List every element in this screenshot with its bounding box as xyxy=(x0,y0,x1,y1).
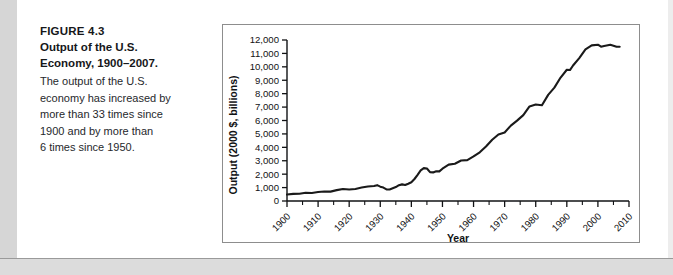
output-line-chart: Output (2000 $, billions) 01,0002,0003,0… xyxy=(223,25,639,242)
x-tick-label-1950: 1950 xyxy=(425,211,448,234)
y-tick-label-6000: 6,000 xyxy=(255,115,279,126)
figure-description: The output of the U.S. economy has incre… xyxy=(40,73,208,156)
page-edge-bottom xyxy=(0,259,673,275)
y-tick-label-10000: 10,000 xyxy=(250,61,279,72)
page-edge-left xyxy=(0,0,17,275)
figure-caption: FIGURE 4.3 Output of the U.S. Economy, 1… xyxy=(40,24,208,156)
x-tick-label-1970: 1970 xyxy=(487,211,510,234)
figure-number: FIGURE 4.3 xyxy=(40,24,208,39)
x-axis-tick-marks xyxy=(287,201,629,207)
y-axis-title: Output (2000 $, billions) xyxy=(227,75,239,194)
figure-description-line-1: The output of the U.S. xyxy=(40,73,208,90)
y-tick-label-2000: 2,000 xyxy=(255,169,279,180)
x-axis-title: Year xyxy=(447,232,469,242)
y-axis-title-group: Output (2000 $, billions) xyxy=(227,75,239,194)
y-tick-label-0: 0 xyxy=(274,195,279,206)
y-tick-label-1000: 1,000 xyxy=(255,182,279,193)
y-tick-label-8000: 8,000 xyxy=(255,88,279,99)
y-axis-tick-labels: 01,0002,0003,0004,0005,0006,0007,0008,00… xyxy=(250,34,279,206)
x-tick-label-1900: 1900 xyxy=(270,211,293,234)
x-tick-label-1920: 1920 xyxy=(332,211,355,234)
figure-title: Output of the U.S. Economy, 1900–2007. xyxy=(40,40,208,71)
y-tick-label-12000: 12,000 xyxy=(250,34,279,45)
y-axis-tick-marks xyxy=(282,40,287,201)
y-tick-label-9000: 9,000 xyxy=(255,75,279,86)
figure-title-line-1: Output of the U.S. xyxy=(40,40,208,56)
figure-title-line-2: Economy, 1900–2007. xyxy=(40,56,208,72)
figure-description-line-4: 1900 and by more than xyxy=(40,123,208,140)
x-tick-label-1940: 1940 xyxy=(394,211,417,234)
x-axis-tick-labels: 1900191019201930194019501960197019801990… xyxy=(270,211,635,234)
x-tick-label-1980: 1980 xyxy=(518,211,541,234)
y-tick-label-11000: 11,000 xyxy=(250,48,279,59)
x-tick-label-1930: 1930 xyxy=(363,211,386,234)
y-tick-label-5000: 5,000 xyxy=(255,128,279,139)
x-tick-label-1960: 1960 xyxy=(456,211,479,234)
output-series-line xyxy=(287,45,620,195)
y-tick-label-7000: 7,000 xyxy=(255,101,279,112)
y-tick-label-4000: 4,000 xyxy=(255,142,279,153)
x-tick-label-1910: 1910 xyxy=(301,211,324,234)
x-tick-label-1990: 1990 xyxy=(549,211,572,234)
chart-frame: Output (2000 $, billions) 01,0002,0003,0… xyxy=(222,24,640,243)
figure-description-line-5: 6 times since 1950. xyxy=(40,139,208,156)
page-canvas: FIGURE 4.3 Output of the U.S. Economy, 1… xyxy=(0,0,673,275)
figure-description-line-3: more than 33 times since xyxy=(40,106,208,123)
x-tick-label-2000: 2000 xyxy=(580,211,603,234)
figure-description-line-2: economy has increased by xyxy=(40,90,208,107)
y-tick-label-3000: 3,000 xyxy=(255,155,279,166)
page-edge-right xyxy=(668,0,673,275)
x-tick-label-2010: 2010 xyxy=(612,211,635,234)
